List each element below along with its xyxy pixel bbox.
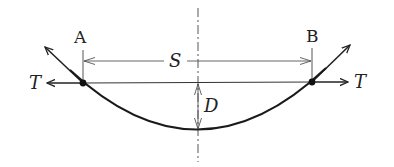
chord-line — [83, 82, 312, 83]
point-a-label: A — [73, 27, 87, 47]
tension-label-left: T — [29, 72, 43, 93]
support-point-b — [309, 79, 316, 86]
sag-label: D — [203, 95, 219, 116]
cable-sag-diagram: S D A B T T — [0, 0, 394, 167]
point-b-label: B — [306, 26, 319, 46]
support-point-a — [80, 80, 87, 87]
tension-label-right: T — [354, 71, 368, 92]
span-label: S — [169, 50, 181, 71]
